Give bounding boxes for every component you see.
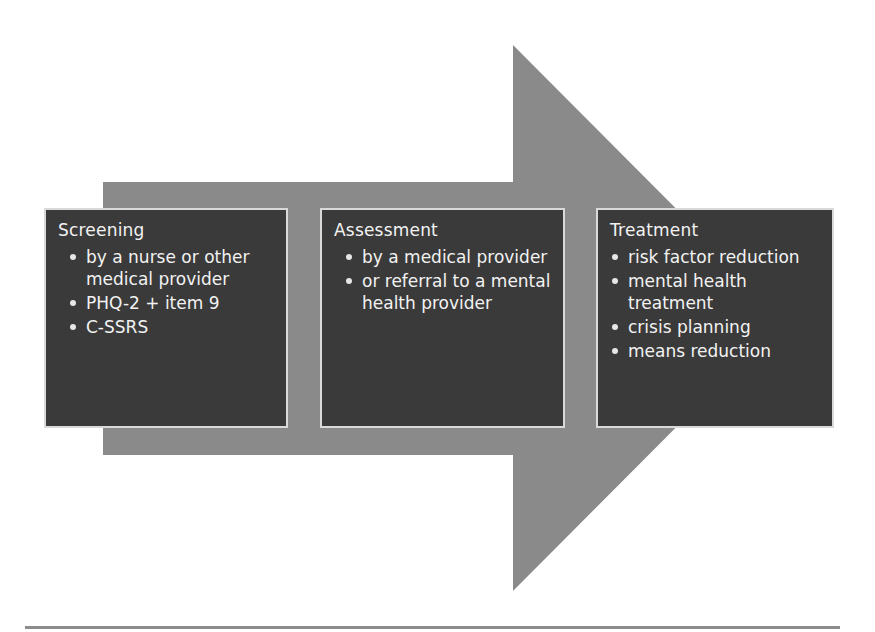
step-item: by a nurse or other medical provider xyxy=(70,246,274,290)
step-screening: Screening by a nurse or other medical pr… xyxy=(44,208,288,428)
step-item: crisis planning xyxy=(612,316,820,338)
step-item: mental health treatment xyxy=(612,270,820,314)
step-item: risk factor reduction xyxy=(612,246,820,268)
step-item: C-SSRS xyxy=(70,316,274,338)
step-title: Screening xyxy=(58,220,274,240)
step-item: PHQ-2 + item 9 xyxy=(70,292,274,314)
step-title: Assessment xyxy=(334,220,551,240)
step-treatment: Treatment risk factor reduction mental h… xyxy=(596,208,834,428)
step-title: Treatment xyxy=(610,220,820,240)
step-assessment: Assessment by a medical provider or refe… xyxy=(320,208,565,428)
step-item: by a medical provider xyxy=(346,246,551,268)
step-item: or referral to a mental health provider xyxy=(346,270,551,314)
bottom-divider xyxy=(25,626,840,629)
step-item: means reduction xyxy=(612,340,820,362)
